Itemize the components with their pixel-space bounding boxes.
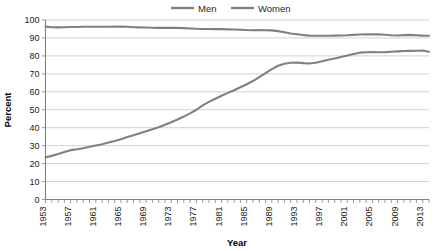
y-tick-label: 30: [29, 141, 39, 151]
y-tick-label: 90: [29, 33, 39, 43]
y-tick-label: 100: [24, 15, 39, 25]
x-tick-label: 1977: [188, 207, 198, 227]
gridlines: [46, 20, 430, 182]
x-tick-label: 1961: [88, 207, 98, 227]
y-tick-label: 40: [29, 123, 39, 133]
y-tick-label: 0: [34, 195, 39, 205]
y-axis-title: Percent: [2, 92, 13, 128]
x-tick-label: 1993: [289, 207, 299, 227]
line-chart: Men Women 0102030405060708090100 1953195…: [0, 0, 439, 251]
chart-canvas: Men Women 0102030405060708090100 1953195…: [0, 0, 439, 251]
x-tick-label: 2001: [339, 207, 349, 227]
x-tick-label: 1969: [138, 207, 148, 227]
legend: Men Women: [171, 3, 291, 14]
x-tick-label: 1965: [113, 207, 123, 227]
x-tick-label: 1985: [239, 207, 249, 227]
x-tick-label: 1957: [63, 207, 73, 227]
series-line-women: [46, 51, 430, 158]
x-tick-label: 1989: [264, 207, 274, 227]
x-tick-label: 2013: [415, 207, 425, 227]
x-tick-label: 2005: [364, 207, 374, 227]
x-axis-tick-labels: 1953195719611965196919731977198119851989…: [38, 207, 425, 227]
y-tick-label: 70: [29, 69, 39, 79]
y-tick-label: 60: [29, 87, 39, 97]
y-tick-label: 50: [29, 105, 39, 115]
x-tick-label: 2009: [390, 207, 400, 227]
x-tick-label: 1997: [314, 207, 324, 227]
y-tick-label: 20: [29, 159, 39, 169]
series-line-men: [46, 27, 430, 36]
legend-label-women: Women: [258, 3, 291, 14]
x-tick-label: 1953: [38, 207, 48, 227]
y-tick-label: 10: [29, 177, 39, 187]
x-axis-title: Year: [227, 237, 247, 248]
x-tick-label: 1981: [214, 207, 224, 227]
legend-label-men: Men: [198, 3, 216, 14]
y-axis-tick-labels: 0102030405060708090100: [24, 15, 39, 205]
x-tick-label: 1973: [163, 207, 173, 227]
y-tick-label: 80: [29, 51, 39, 61]
